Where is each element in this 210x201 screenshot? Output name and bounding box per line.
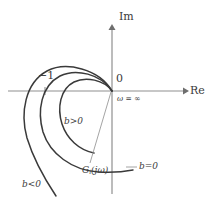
nyquist-curves-group — [24, 67, 133, 196]
branch-label-b-zero: b=0 — [139, 162, 158, 171]
omega-infinity-annotation: ω = ∞ — [117, 95, 140, 103]
branch-label-b-negative: b<0 — [22, 180, 41, 189]
imaginary-axis-label: Im — [119, 11, 134, 22]
nyquist-diagram-figure: Im Re −1 0 ω = ∞ b>0 b=0 b<0 Gi(jω) — [0, 0, 210, 201]
real-axis-arrowhead — [183, 87, 189, 94]
branch-label-b-positive: b>0 — [64, 117, 83, 126]
real-axis-tick-label-minus-one: −1 — [38, 70, 54, 81]
real-axis-label: Re — [190, 85, 205, 96]
transfer-function-argument: (jω) — [91, 165, 108, 175]
origin-label: 0 — [116, 73, 123, 84]
leader-line-transfer-function — [90, 92, 111, 163]
nyquist-curve-b-zero — [40, 72, 133, 172]
transfer-function-label: Gi(jω) — [82, 166, 108, 175]
leader-lines-group — [90, 92, 137, 167]
imaginary-axis-arrowhead — [109, 24, 116, 30]
